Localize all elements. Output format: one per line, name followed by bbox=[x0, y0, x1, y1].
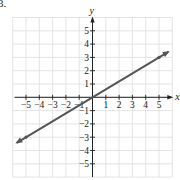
y-tick-label: −2 bbox=[79, 119, 89, 129]
y-tick-label: 2 bbox=[84, 66, 89, 76]
x-tick-label: 1 bbox=[103, 100, 108, 110]
marked-point bbox=[157, 56, 160, 59]
x-tick-label: 4 bbox=[143, 100, 148, 110]
y-tick-label: 5 bbox=[84, 26, 89, 36]
x-tick-label: 3 bbox=[130, 100, 135, 110]
x-tick-label: 2 bbox=[117, 100, 122, 110]
marked-point bbox=[24, 136, 27, 139]
coordinate-plane: xy −5−4−3−2−112345−5−4−3−2−112345 bbox=[0, 0, 180, 180]
y-axis-label: y bbox=[89, 5, 95, 16]
x-tick-label: −4 bbox=[34, 100, 44, 110]
x-tick-label: −5 bbox=[21, 100, 31, 110]
y-tick-label: −5 bbox=[79, 159, 89, 169]
y-tick-label: 1 bbox=[84, 79, 89, 89]
y-tick-label: 3 bbox=[84, 53, 89, 63]
x-tick-label: 5 bbox=[157, 100, 162, 110]
y-tick-label: −3 bbox=[79, 133, 89, 143]
line-arrow-left-icon bbox=[15, 138, 22, 144]
x-axis-label: x bbox=[174, 91, 180, 102]
x-tick-label: −3 bbox=[48, 100, 58, 110]
y-tick-label: 4 bbox=[84, 39, 89, 49]
line-arrow-right-icon bbox=[162, 51, 169, 57]
y-tick-label: −4 bbox=[79, 146, 89, 156]
x-tick-label: −2 bbox=[61, 100, 71, 110]
y-tick-label: −1 bbox=[79, 106, 89, 116]
